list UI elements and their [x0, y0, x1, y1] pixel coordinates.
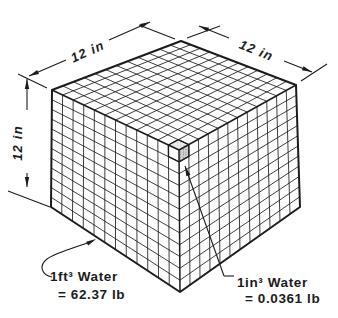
arrowhead: [302, 66, 312, 72]
diagram-canvas: 12 in 12 in 12 in 1ft³ Water = 62.37 lb …: [0, 0, 338, 318]
arrowhead: [25, 177, 29, 187]
cubic-foot-label-line1: 1ft³ Water: [50, 269, 118, 284]
dimension-label-top-right: 12 in: [237, 37, 276, 64]
arrowhead: [86, 239, 96, 246]
arrowhead: [25, 79, 29, 89]
arrowhead: [199, 26, 209, 32]
cubic-inch-label-line1: 1in³ Water: [237, 275, 308, 290]
cubic-inch-label-line2: = 0.0361 lb: [245, 291, 320, 306]
cube-grid-lines: [51, 45, 300, 285]
arrowhead: [29, 70, 39, 76]
cubic-foot-label-line2: = 62.37 lb: [58, 287, 125, 302]
dimension-label-left: 12 in: [10, 125, 25, 161]
dimension-label-top-left: 12 in: [68, 37, 107, 65]
cubic-foot-water-diagram: 12 in 12 in 12 in 1ft³ Water = 62.37 lb …: [0, 0, 338, 318]
dimension-and-leader-lines: [8, 22, 327, 277]
